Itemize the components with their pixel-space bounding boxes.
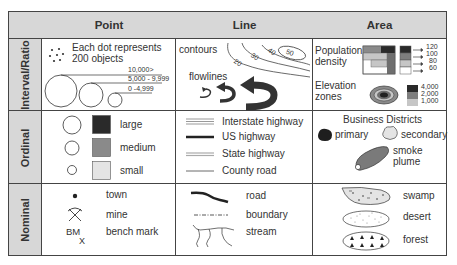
desert-icon [343, 211, 389, 227]
column-header-area: Area [313, 12, 446, 39]
population-value: 60 [429, 64, 437, 71]
bench-mark-label: bench mark [106, 226, 158, 237]
elevation-value: 2,000 [421, 90, 439, 97]
elevation-legend-swatches [407, 85, 418, 106]
cell-interval-area: Population density 120 100 [313, 39, 446, 110]
cell-ordinal-point: large medium small [42, 111, 175, 183]
town-dot-icon [72, 193, 78, 199]
circle-legend-label: 0 -4,999 [128, 85, 154, 92]
swamp-icon [342, 187, 390, 204]
stream-label: stream [246, 226, 277, 237]
proportional-circles-icon [42, 65, 175, 110]
elevation-value: 1,000 [421, 97, 439, 104]
swamp-label: swamp [403, 190, 435, 201]
population-label: density [315, 56, 347, 67]
mine-label: mine [106, 209, 128, 220]
flowlines-icon [196, 79, 296, 109]
boundary-label: boundary [246, 209, 288, 220]
row-label: Interval/Ratio [19, 40, 31, 110]
road-symbols-icon [186, 117, 218, 181]
elevation-value: 4,000 [421, 83, 439, 90]
elevation-zones-icon [369, 85, 399, 105]
measurement-levels-table: Point Line Area Interval/Ratio Ordinal N… [8, 11, 447, 256]
secondary-district-icon [381, 125, 399, 141]
road-label: road [246, 190, 266, 201]
population-value: 120 [426, 43, 438, 50]
size-label-small: small [120, 165, 143, 176]
stream-icon [192, 224, 236, 250]
road-line-icon [190, 190, 230, 204]
smoke-label: smoke [393, 145, 422, 156]
road-label-interstate: Interstate highway [222, 116, 303, 127]
graduated-circles-icon [62, 115, 92, 185]
cell-nominal-point: town mine BM X bench mark [42, 184, 175, 255]
row-header-ordinal: Ordinal [9, 111, 42, 184]
road-label-state: State highway [222, 148, 285, 159]
road-label-us: US highway [222, 131, 275, 142]
forest-icon [343, 232, 389, 250]
arrow-icons [413, 46, 423, 74]
bench-mark-x: X [79, 236, 85, 246]
smoke-plume-icon [353, 145, 393, 171]
elevation-label: Elevation [315, 80, 356, 91]
size-label-large: large [120, 119, 142, 130]
header-corner [9, 12, 42, 39]
mine-icon [66, 206, 84, 222]
circle-legend-label: 10,000> [128, 66, 154, 73]
cell-nominal-area: swamp desert forest [313, 184, 446, 255]
population-label: Population [315, 45, 362, 56]
row-header-interval-ratio: Interval/Ratio [9, 39, 42, 111]
dot-caption: 200 objects [72, 53, 123, 64]
size-label-medium: medium [120, 142, 156, 153]
cell-ordinal-line: Interstate highway US highway State high… [176, 111, 312, 183]
cell-nominal-line: road boundary stream [176, 184, 312, 255]
dot-caption: Each dot represents [72, 42, 162, 53]
cell-interval-point: Each dot represents 200 objects 10,000> … [42, 39, 175, 110]
choropleth-icon [363, 46, 395, 74]
primary-label: primary [335, 129, 368, 140]
desert-label: desert [403, 211, 431, 222]
population-legend-swatches [400, 46, 411, 74]
population-value: 80 [429, 57, 437, 64]
row-label: Nominal [19, 198, 31, 241]
elevation-label: zones [315, 91, 342, 102]
population-value: 100 [426, 50, 438, 57]
primary-district-icon [317, 128, 333, 142]
cell-ordinal-area: Business Districts primary secondary smo… [313, 111, 446, 183]
cell-interval-line: contours 20 30 40 50 flowlines [176, 39, 312, 110]
boundary-line-icon [194, 213, 230, 217]
graduated-shades-icon [92, 115, 112, 183]
column-header-line: Line [176, 12, 313, 39]
secondary-label: secondary [401, 129, 447, 140]
circle-legend-label: 5,000 - 9,999 [128, 75, 169, 82]
row-header-nominal: Nominal [9, 184, 42, 255]
smoke-label: plume [393, 156, 420, 167]
column-header-point: Point [42, 12, 176, 39]
area-patterns-icon [341, 186, 393, 252]
town-label: town [106, 189, 127, 200]
road-label-county: County road [222, 165, 276, 176]
forest-label: forest [403, 234, 428, 245]
row-label: Ordinal [19, 128, 31, 167]
contours-label: contours [179, 44, 217, 55]
business-districts-title: Business Districts [343, 114, 422, 125]
